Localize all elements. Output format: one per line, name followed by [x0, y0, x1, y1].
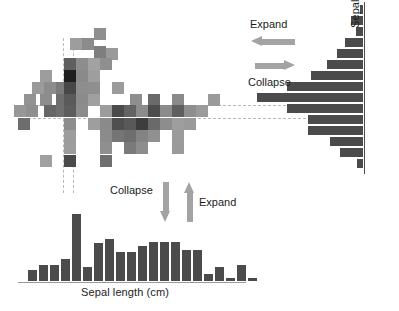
histogram-bar — [236, 264, 247, 282]
scatter-point — [172, 142, 184, 154]
scatter-point — [136, 142, 148, 154]
histogram-bar — [93, 242, 104, 282]
scatter-point — [76, 105, 88, 117]
expand-label-right: Expand — [250, 18, 287, 30]
histogram-bar — [326, 59, 364, 70]
histogram-bar — [203, 273, 214, 282]
x-axis-label: Sepal length (cm) — [0, 286, 250, 298]
histogram-bar — [214, 266, 225, 282]
scatter-point — [100, 105, 112, 117]
sepal-length-histogram — [18, 205, 253, 283]
histogram-bar — [137, 245, 148, 282]
scatter-point — [88, 58, 100, 70]
histogram-bar — [159, 241, 170, 282]
scatter-point — [136, 130, 148, 142]
histogram-bar — [82, 266, 93, 282]
scatter-point — [148, 118, 160, 130]
scatter-point — [64, 155, 76, 167]
scatter-point — [64, 118, 76, 130]
histogram-bar — [71, 213, 82, 282]
histogram-bar — [115, 251, 126, 282]
expand-arrow-up-icon — [184, 182, 195, 222]
scatter-point — [76, 82, 88, 94]
scatter-point — [94, 46, 106, 58]
scatter-point — [124, 105, 136, 117]
histogram-bar — [256, 92, 364, 103]
expand-arrow-left-icon — [251, 36, 295, 47]
scatter-point — [44, 105, 56, 117]
scatter-point — [88, 94, 100, 106]
scatter-point — [124, 142, 136, 154]
scatter-point — [88, 82, 100, 94]
histogram-bar — [104, 238, 115, 282]
scatter-point — [112, 105, 124, 117]
histogram-bar — [344, 37, 364, 48]
scatter-point — [64, 58, 76, 70]
histogram-bar — [339, 147, 364, 158]
histogram-bar — [336, 48, 364, 59]
scatter-point — [172, 105, 184, 117]
histogram-bar — [247, 277, 258, 282]
histogram-right-axis — [364, 2, 365, 174]
collapse-label-bottom: Collapse — [110, 184, 153, 196]
scatter-point — [64, 105, 76, 117]
histogram-bar — [170, 241, 181, 282]
scatter-point — [112, 118, 124, 130]
scatter-point — [26, 105, 38, 117]
figure-canvas: Sepal width (cm) Sepal length (cm) Expan… — [0, 0, 399, 311]
scatter-point — [112, 130, 124, 142]
scatter-point — [64, 70, 76, 82]
scatter-point — [172, 130, 184, 142]
scatter-point — [100, 58, 112, 70]
histogram-bar — [181, 249, 192, 282]
scatter-point — [82, 38, 94, 50]
scatter-point — [100, 118, 112, 130]
collapse-arrow-right-icon — [255, 60, 295, 71]
scatter-point — [148, 130, 160, 142]
scatter-point — [100, 130, 112, 142]
scatter-point — [160, 118, 172, 130]
scatter-point — [184, 105, 196, 117]
scatter-point — [112, 82, 124, 94]
scatter-point — [64, 82, 76, 94]
histogram-bar — [225, 277, 236, 282]
histogram-bar — [310, 70, 364, 81]
y-axis-label: Sepal width (cm) — [349, 0, 361, 28]
histogram-bar — [38, 264, 49, 282]
scatter-point — [88, 70, 100, 82]
scatter-point — [40, 155, 52, 167]
scatter-plot-panel — [0, 0, 250, 175]
scatter-point — [136, 105, 148, 117]
collapse-label-right: Collapse — [248, 76, 291, 88]
histogram-bottom-axis — [18, 282, 246, 283]
scatter-point — [184, 118, 196, 130]
histogram-bar — [356, 158, 364, 169]
scatter-point — [160, 105, 172, 117]
scatter-point — [70, 38, 82, 50]
expand-label-bottom: Expand — [199, 196, 236, 208]
histogram-bar — [192, 249, 203, 282]
scatter-point — [32, 82, 44, 94]
scatter-point — [148, 105, 160, 117]
histogram-bar — [27, 269, 38, 282]
scatter-point — [88, 118, 100, 130]
scatter-point — [40, 70, 52, 82]
histogram-bar — [148, 241, 159, 282]
scatter-point — [100, 155, 112, 167]
histogram-bar — [286, 81, 364, 92]
scatter-point — [94, 28, 106, 40]
histogram-bar — [60, 258, 71, 282]
scatter-point — [136, 118, 148, 130]
histogram-bar — [307, 114, 364, 125]
histogram-bar — [307, 125, 364, 136]
scatter-point — [100, 142, 112, 154]
histogram-bar — [286, 103, 364, 114]
scatter-point — [76, 58, 88, 70]
histogram-bar — [49, 264, 60, 282]
scatter-point — [76, 70, 88, 82]
scatter-point — [64, 130, 76, 142]
histogram-bar — [126, 251, 137, 282]
scatter-point — [196, 105, 208, 117]
scatter-point — [18, 118, 30, 130]
collapse-arrow-down-icon — [160, 182, 171, 222]
